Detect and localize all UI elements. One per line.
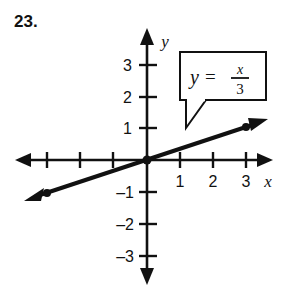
coordinate-plane-svg: 3 2 1 –1 –2 –3 1 2 3 y x	[0, 0, 288, 294]
line-start-arrow-icon	[24, 188, 44, 201]
x-tick-label-1: 1	[176, 173, 185, 190]
y-tick-label-neg3: –3	[116, 248, 134, 265]
equation-operator: =	[205, 66, 216, 87]
y-axis-up-arrow-icon	[140, 28, 154, 45]
x-tick-label-3: 3	[242, 173, 251, 190]
x-axis-label: x	[263, 172, 272, 191]
callout-tail-icon	[186, 100, 206, 128]
data-point-origin	[143, 156, 152, 165]
equation-numerator: x	[236, 62, 244, 77]
y-tick-label-2: 2	[123, 89, 132, 106]
data-point-3-1	[242, 123, 250, 131]
line-end-arrow-icon	[248, 118, 268, 131]
y-axis-down-arrow-icon	[140, 268, 154, 285]
y-axis-label: y	[159, 32, 169, 51]
x-axis-tick-labels: 1 2 3	[176, 173, 251, 190]
graph-figure: 23.	[0, 0, 288, 294]
x-axis-right-arrow-icon	[257, 153, 273, 167]
equation-denominator: 3	[236, 81, 244, 97]
y-tick-label-neg1: –1	[116, 184, 134, 201]
equation-callout: y = x 3	[180, 52, 266, 128]
x-axis-left-arrow-icon	[15, 153, 31, 167]
y-tick-label-1: 1	[123, 120, 132, 137]
y-tick-label-3: 3	[123, 57, 132, 74]
x-tick-label-2: 2	[209, 173, 218, 190]
data-point-neg3-neg1	[43, 189, 51, 197]
equation-lhs: y	[188, 66, 199, 89]
y-tick-label-neg2: –2	[116, 216, 134, 233]
problem-number: 23.	[14, 13, 38, 30]
